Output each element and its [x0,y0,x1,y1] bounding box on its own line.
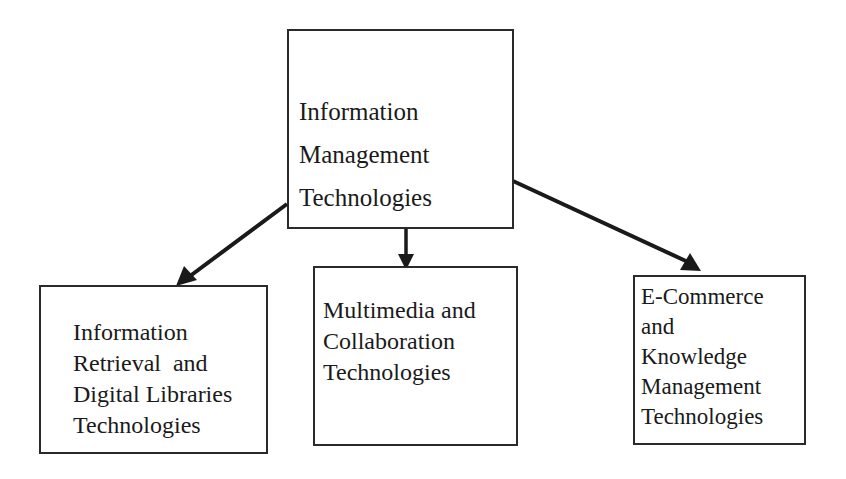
arrowhead-icon [176,266,197,286]
node-label-line: Information [73,317,266,348]
node-label-line: Technologies [641,402,804,432]
node-label-line: Technologies [323,357,516,388]
child-node-multimedia-collaboration: Multimedia and Collaboration Technologie… [313,266,518,446]
node-label-line: Technologies [73,410,266,441]
arrowhead-icon [680,253,701,271]
node-label-line: Collaboration [323,326,516,357]
node-label-line: Multimedia and [323,295,516,326]
node-label-line: Knowledge [641,342,804,372]
arrow-root-to-retrieval [176,204,287,286]
node-label-line: and [641,312,804,342]
node-label-line: Management [641,372,804,402]
node-label-line: Management [299,133,512,176]
child-node-information-retrieval: Information Retrieval and Digital Librar… [39,285,268,454]
node-label-line: E-Commerce [641,282,804,312]
arrow-root-to-ecommerce [513,181,701,271]
node-label-line: Digital Libraries [73,379,266,410]
child-node-ecommerce-knowledge: E-Commerce and Knowledge Management Tech… [633,275,806,445]
node-label-line: Technologies [299,176,512,219]
node-label-line: Information [299,90,512,133]
root-node-information-management: Information Management Technologies [287,29,514,229]
arrow-root-to-multimedia [398,228,414,270]
node-label-line: Retrieval and [73,348,266,379]
